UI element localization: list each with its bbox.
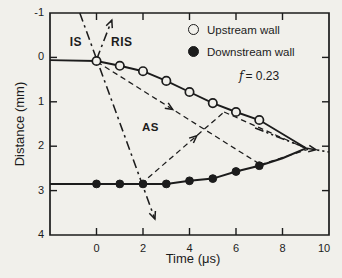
filled-circle-point xyxy=(209,175,217,183)
upstream-wall-markers xyxy=(92,57,263,124)
x-tick-label: 2 xyxy=(128,242,158,255)
filled-circle-marker-icon xyxy=(188,46,199,57)
y-tick-label: 4 xyxy=(16,228,44,242)
filled-circle-point xyxy=(186,177,194,185)
filled-circle-point xyxy=(116,180,124,188)
xt-diagram-figure: Distance (mm) Time (μs) IS RIS AS f= 0.2… xyxy=(0,0,342,278)
downstream-wall-line xyxy=(50,148,306,184)
f-value: = 0.23 xyxy=(245,69,279,83)
open-circle-point xyxy=(232,108,240,116)
legend-label-upstream: Upstream wall xyxy=(207,24,280,36)
convergence-lead-line xyxy=(255,128,306,148)
y-tick-label: 1 xyxy=(16,95,44,109)
legend: Upstream wall Downstream wall xyxy=(188,22,295,66)
f-value-annotation: f= 0.23 xyxy=(239,69,279,83)
x-tick-label: 0 xyxy=(82,242,112,255)
filled-circle-point xyxy=(93,180,101,188)
is-annotation: IS xyxy=(58,35,82,49)
legend-label-downstream: Downstream wall xyxy=(207,46,295,58)
f-symbol: f xyxy=(239,69,243,83)
reflected-shock-line xyxy=(97,20,113,59)
open-circle-point xyxy=(209,99,217,107)
x-tick-label: 4 xyxy=(175,242,205,255)
open-circle-point xyxy=(162,77,170,85)
ris-annotation: RIS xyxy=(111,35,133,49)
x-tick-label: 10 xyxy=(309,242,339,255)
x-tick-label: 6 xyxy=(221,242,251,255)
y-tick-label: 2 xyxy=(16,139,44,153)
filled-circle-point xyxy=(139,180,147,188)
arrowhead-icon xyxy=(149,211,155,219)
filled-circle-point xyxy=(232,168,240,176)
legend-item-downstream: Downstream wall xyxy=(188,44,295,59)
y-tick-label: 3 xyxy=(16,184,44,198)
open-circle-marker-icon xyxy=(188,24,199,35)
open-circle-point xyxy=(116,62,124,70)
open-circle-point xyxy=(255,116,263,124)
legend-item-upstream: Upstream wall xyxy=(188,22,295,37)
y-tick-label: -1 xyxy=(16,6,44,20)
x-tick-label: 8 xyxy=(268,242,298,255)
y-axis-label: Distance (mm) xyxy=(12,54,28,194)
downstream-wall-markers xyxy=(93,162,264,188)
as-annotation: AS xyxy=(142,121,159,133)
open-circle-point xyxy=(139,67,147,75)
filled-circle-point xyxy=(255,162,263,170)
open-circle-point xyxy=(185,88,193,96)
open-circle-point xyxy=(92,57,100,65)
y-tick-label: 0 xyxy=(16,50,44,64)
arrowhead-icon xyxy=(165,103,173,110)
filled-circle-point xyxy=(162,180,170,188)
